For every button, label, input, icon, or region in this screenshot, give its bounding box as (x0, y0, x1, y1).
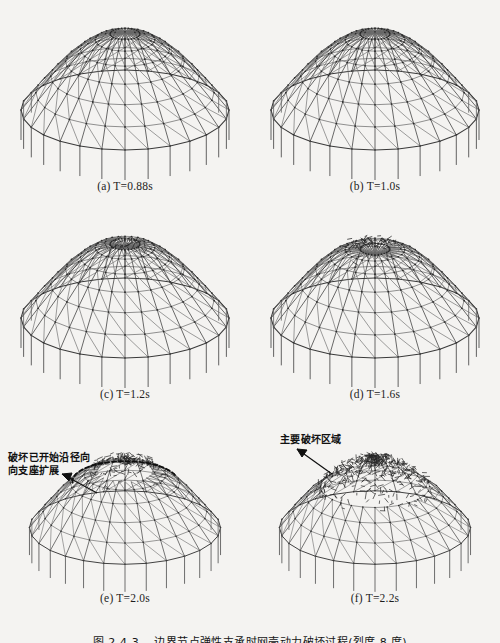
panel-b: (b) T=1.0s (250, 0, 500, 208)
dome-view-c (9, 214, 241, 386)
panel-a: (a) T=0.88s (0, 0, 250, 208)
dome-svg-a (9, 6, 241, 178)
dome-view-a (9, 6, 241, 178)
dome-svg-c (9, 214, 241, 386)
panel-caption-f: (f) T=2.2s (351, 592, 400, 604)
panel-grid: (a) T=0.88s (b) T=1.0s (c) T=1.2s (0, 0, 500, 643)
panel-caption-b: (b) T=1.0s (350, 180, 400, 192)
figure-caption: 图 2-4-3 边界节点弹性支承时网壳动力破坏过程(烈度 8 度) (0, 633, 500, 643)
annotation-radial-damage: 破坏已开始沿径向 向支座扩展 (8, 452, 90, 477)
dome-svg-b (259, 6, 491, 178)
dome-view-b (259, 6, 491, 178)
dome-svg-d (259, 214, 491, 386)
panel-f: (f) T=2.2s (250, 416, 500, 621)
dome-view-f (259, 432, 491, 590)
annotation-main-damage-zone: 主要破坏区域 (280, 434, 342, 447)
panel-caption-c: (c) T=1.2s (100, 388, 150, 400)
figure-root: (a) T=0.88s (b) T=1.0s (c) T=1.2s (0, 0, 500, 643)
panel-c: (c) T=1.2s (0, 208, 250, 416)
panel-caption-e: (e) T=2.0s (100, 592, 150, 604)
panel-caption-d: (d) T=1.6s (350, 388, 400, 400)
panel-caption-a: (a) T=0.88s (97, 180, 153, 192)
panel-e: (e) T=2.0s (0, 416, 250, 621)
dome-svg-f (259, 432, 491, 590)
panel-d: (d) T=1.6s (250, 208, 500, 416)
dome-view-d (259, 214, 491, 386)
